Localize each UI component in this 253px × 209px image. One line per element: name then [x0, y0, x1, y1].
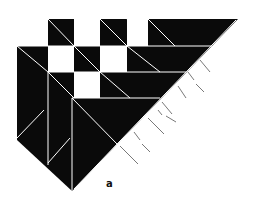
geometric-triangle-figure: [0, 0, 253, 209]
figure-label: a: [106, 178, 113, 189]
